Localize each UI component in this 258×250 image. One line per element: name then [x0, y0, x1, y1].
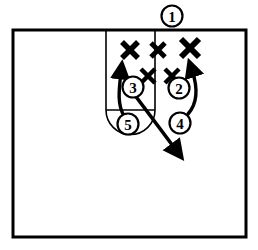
- player-2-label: 2: [175, 81, 183, 97]
- court-svg: 1 3 2 5 4: [0, 0, 258, 250]
- player-4-label: 4: [176, 116, 184, 132]
- player-3[interactable]: 3: [123, 77, 144, 98]
- player-2[interactable]: 2: [169, 78, 190, 99]
- player-1-label: 1: [168, 9, 176, 25]
- player-5[interactable]: 5: [118, 114, 139, 135]
- player-1[interactable]: 1: [162, 6, 183, 27]
- player-4[interactable]: 4: [170, 113, 191, 134]
- player-5-label: 5: [124, 117, 132, 133]
- play-diagram: 1 3 2 5 4: [0, 0, 258, 250]
- player-3-label: 3: [129, 80, 137, 96]
